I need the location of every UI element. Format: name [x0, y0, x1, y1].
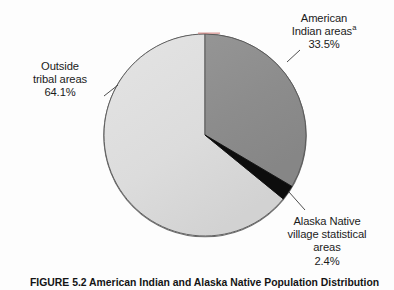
pie-label-american-indian-line1: American: [268, 12, 380, 25]
figure-caption: FIGURE 5.2 American Indian and Alaska Na…: [30, 277, 390, 290]
pie-label-outside-tribal-line1: Outside: [12, 60, 108, 73]
leader-line-american-indian: [287, 50, 300, 62]
pie-label-american-indian-superscript: a: [352, 23, 356, 32]
pie-label-outside-tribal: Outside tribal areas 64.1%: [12, 60, 108, 100]
pie-label-american-indian-line2-text: Indian areas: [292, 25, 352, 37]
pie-label-alaska-native-line3: areas: [266, 241, 388, 254]
pie-label-american-indian-line2: Indian areasa: [268, 25, 380, 38]
pie-label-alaska-native-value: 2.4%: [266, 255, 388, 268]
pie-label-outside-tribal-value: 64.1%: [12, 86, 108, 99]
leader-line-alaska-native: [289, 192, 305, 210]
pie-label-alaska-native-line2: village statistical: [266, 228, 388, 241]
pie-label-american-indian-value: 33.5%: [268, 38, 380, 51]
pie-label-american-indian: American Indian areasa 33.5%: [268, 12, 380, 52]
scan-artifact: [198, 32, 220, 34]
figure-container: American Indian areasa 33.5% Outside tri…: [0, 0, 394, 290]
pie-label-alaska-native: Alaska Native village statistical areas …: [266, 215, 388, 268]
pie-label-alaska-native-line1: Alaska Native: [266, 215, 388, 228]
pie-label-outside-tribal-line2: tribal areas: [12, 73, 108, 86]
